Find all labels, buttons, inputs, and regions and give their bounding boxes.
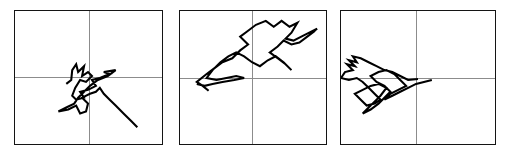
- panel-1-random-walk-path: [58, 64, 137, 127]
- panel-2-random-walk-path: [197, 21, 317, 91]
- panel-2: [179, 10, 327, 145]
- panel-3-canvas: [341, 11, 495, 144]
- panel-1-canvas: [15, 11, 162, 144]
- panel-3-random-walk-path: [341, 56, 432, 113]
- panel-1: [14, 10, 163, 145]
- panel-2-canvas: [180, 11, 326, 144]
- random-walk-figure: [0, 0, 509, 156]
- panel-3: [340, 10, 496, 145]
